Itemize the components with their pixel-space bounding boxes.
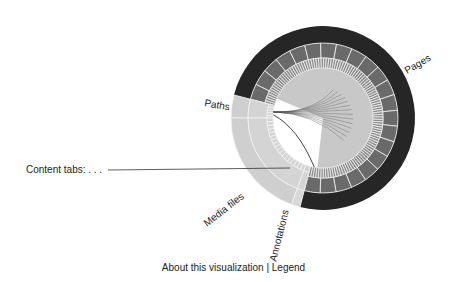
content-tabs-label[interactable]: Content tabs: . . . <box>26 164 102 175</box>
about-visualization-link[interactable]: About this visualization <box>162 262 264 273</box>
segment-label-pages[interactable]: Pages <box>403 52 433 76</box>
segment-label-media-files[interactable]: Media files <box>201 190 245 228</box>
legend-link[interactable]: Legend <box>272 262 305 273</box>
paths-outer-ring[interactable] <box>231 95 250 118</box>
pages-middle-segment[interactable] <box>320 177 336 193</box>
pages-middle-segment[interactable] <box>383 110 398 126</box>
segment-label-annotations[interactable]: Annotations <box>267 209 290 263</box>
segment-label-paths[interactable]: Paths <box>204 97 231 112</box>
media-tick-segment[interactable] <box>267 118 273 122</box>
footer-separator: | <box>266 262 269 273</box>
ring-segments <box>231 26 415 210</box>
footer-links: About this visualization | Legend <box>0 262 467 273</box>
radial-visualization: Pages Paths Media files Annotations <box>0 0 467 282</box>
